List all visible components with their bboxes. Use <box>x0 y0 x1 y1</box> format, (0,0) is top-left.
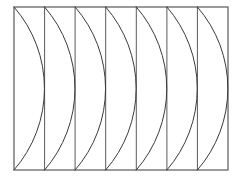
arcs-diagram <box>0 0 237 177</box>
figure-container <box>0 0 237 177</box>
canvas-background <box>0 0 237 177</box>
